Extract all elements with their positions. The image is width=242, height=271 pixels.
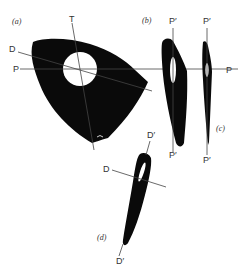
panel-c-label-p: P xyxy=(226,65,232,75)
panel-c-label: (c) xyxy=(216,124,225,133)
panel-d-shape xyxy=(123,153,151,245)
panel-d-label-d: D xyxy=(103,164,110,174)
panel-d-axis-d-prime-top xyxy=(146,141,150,155)
panel-c-label-top: P′ xyxy=(203,16,211,26)
cross-section-diagram: (a) T D P (b) P′ P′ (c) P′ P′ P (d) D xyxy=(0,0,242,271)
panel-c: (c) P′ P′ P xyxy=(202,16,232,165)
panel-b-shape xyxy=(162,39,188,147)
panel-a-label-t: T xyxy=(69,14,75,24)
panel-c-label-bottom: P′ xyxy=(203,155,211,165)
panel-a-label-d: D xyxy=(9,44,16,54)
panel-d-label-top: D′ xyxy=(147,130,155,140)
panel-d-label-bottom: D′ xyxy=(116,256,124,266)
panel-b-label-top: P′ xyxy=(169,16,177,26)
panel-d: (d) D′ D′ D xyxy=(97,130,166,266)
panel-d-axis-d-prime-bottom xyxy=(119,244,123,256)
panel-a-label-p: P xyxy=(13,64,19,74)
panel-a-label: (a) xyxy=(12,17,22,26)
panel-b-label: (b) xyxy=(142,16,152,25)
panel-d-label: (d) xyxy=(97,233,107,242)
panel-b-label-bottom: P′ xyxy=(169,150,177,160)
